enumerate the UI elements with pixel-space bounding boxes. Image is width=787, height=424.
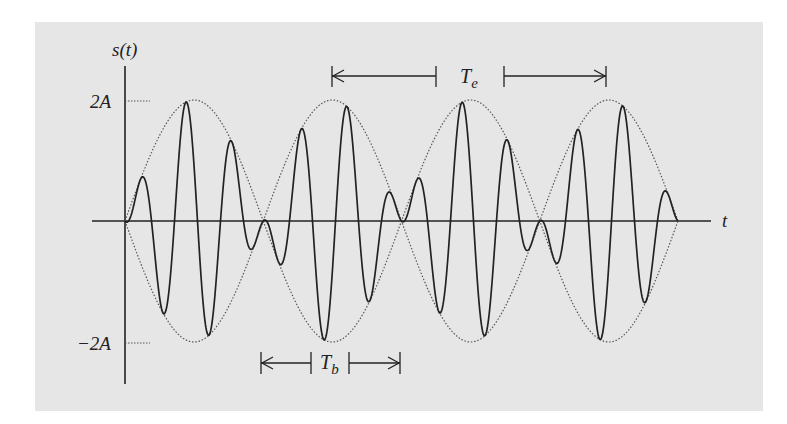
tick-label-2A: 2A xyxy=(90,91,112,112)
y-axis-label: s(t) xyxy=(112,39,137,61)
envelope-lower xyxy=(125,221,678,342)
x-axis-label: t xyxy=(722,210,728,231)
beat-signal-plot: s(t) t 2A −2A Te Tb xyxy=(0,0,787,424)
tick-label-neg2A: −2A xyxy=(77,333,111,354)
te-label: Te xyxy=(460,65,478,91)
envelope-upper xyxy=(125,100,678,221)
tb-label: Tb xyxy=(320,351,339,377)
